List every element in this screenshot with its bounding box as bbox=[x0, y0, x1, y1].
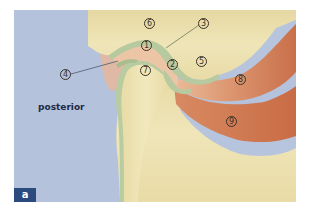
label-8: 8 bbox=[235, 74, 246, 85]
label-6: 6 bbox=[144, 18, 155, 29]
label-7: 7 bbox=[140, 65, 151, 76]
label-5: 5 bbox=[196, 56, 207, 67]
label-4: 4 bbox=[60, 69, 71, 80]
posterior-label: posterior bbox=[38, 102, 85, 112]
label-2: 2 bbox=[167, 59, 178, 70]
tmj-diagram-figure: 6 3 1 4 7 2 5 8 9 posterior a bbox=[14, 10, 296, 202]
label-3: 3 bbox=[198, 18, 209, 29]
label-1: 1 bbox=[141, 40, 152, 51]
label-9: 9 bbox=[226, 116, 237, 127]
panel-letter-badge: a bbox=[14, 188, 36, 202]
